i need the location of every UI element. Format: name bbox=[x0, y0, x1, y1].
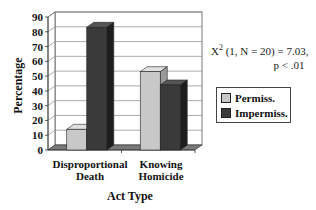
category-line: Homicide bbox=[128, 170, 194, 182]
stat-symbol: X bbox=[211, 45, 219, 57]
y-tick-label: 50 bbox=[32, 70, 44, 82]
stat-text: (1, N = 20) = 7.03, bbox=[223, 45, 308, 57]
bar-impermiss-2 bbox=[160, 85, 180, 150]
p-value: p < .01 bbox=[211, 58, 308, 72]
y-tick-label: 90 bbox=[32, 11, 44, 23]
y-tick-label: 0 bbox=[38, 144, 44, 156]
category-line: Disproportional bbox=[44, 158, 136, 170]
y-tick-label: 70 bbox=[32, 41, 44, 53]
category-line: Knowing bbox=[128, 158, 194, 170]
y-tick-label: 10 bbox=[32, 129, 44, 141]
chi-square-annotation: X2 (1, N = 20) = 7.03, p < .01 bbox=[211, 41, 308, 72]
x-axis-label: Act Type bbox=[90, 189, 170, 204]
bar-permiss-1 bbox=[67, 129, 87, 150]
legend: Permiss. Impermiss. bbox=[216, 87, 291, 123]
bar-impermiss-1 bbox=[87, 27, 107, 150]
legend-swatch-icon bbox=[221, 93, 231, 103]
category-line: Death bbox=[44, 170, 136, 182]
x-category-label-2: Knowing Homicide bbox=[128, 158, 194, 182]
legend-item-permiss: Permiss. bbox=[221, 92, 275, 104]
y-tick-label: 80 bbox=[32, 26, 44, 38]
bar-chart: 0102030405060708090 Percentage Dispropor… bbox=[0, 0, 316, 210]
x-category-label-1: Disproportional Death bbox=[44, 158, 136, 182]
y-tick-label: 40 bbox=[32, 85, 44, 97]
legend-item-impermiss: Impermiss. bbox=[221, 107, 288, 119]
bar-permiss-2 bbox=[140, 72, 160, 150]
legend-label: Permiss. bbox=[235, 92, 275, 104]
legend-swatch-icon bbox=[221, 108, 231, 118]
y-axis-label: Percentage bbox=[11, 46, 26, 126]
y-tick-label: 20 bbox=[32, 114, 44, 126]
legend-label: Impermiss. bbox=[235, 107, 288, 119]
y-tick-label: 30 bbox=[32, 100, 44, 112]
y-tick-label: 60 bbox=[32, 55, 44, 67]
